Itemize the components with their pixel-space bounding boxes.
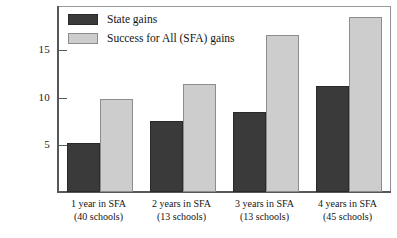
legend-item-1: State gains bbox=[68, 12, 235, 27]
category-label-4: 4 years in SFA(45 schools) bbox=[306, 198, 389, 223]
bar-state-gains-group-2 bbox=[150, 121, 183, 192]
bar-state-gains-group-3 bbox=[233, 112, 266, 192]
x-axis-category-labels: 1 year in SFA(40 schools)2 years in SFA(… bbox=[57, 198, 391, 234]
y-tick-label: 15 bbox=[16, 44, 50, 55]
y-tick-label: 10 bbox=[16, 92, 50, 103]
y-tick-label: 5 bbox=[16, 139, 50, 150]
category-label-line1: 3 years in SFA bbox=[223, 198, 306, 211]
category-label-line2: (13 schools) bbox=[223, 211, 306, 224]
category-label-line1: 1 year in SFA bbox=[57, 198, 140, 211]
legend-swatch-dark bbox=[68, 14, 98, 25]
category-label-line2: (13 schools) bbox=[140, 211, 223, 224]
category-label-3: 3 years in SFA(13 schools) bbox=[223, 198, 306, 223]
bar-state-gains-group-4 bbox=[316, 86, 349, 192]
category-label-2: 2 years in SFA(13 schools) bbox=[140, 198, 223, 223]
category-label-line2: (40 schools) bbox=[57, 211, 140, 224]
legend-item-2: Success for All (SFA) gains bbox=[68, 31, 235, 46]
bar-sfa-gains-group-1 bbox=[100, 99, 133, 192]
category-label-1: 1 year in SFA(40 schools) bbox=[57, 198, 140, 223]
bar-sfa-gains-group-4 bbox=[349, 17, 382, 192]
bar-chart-figure: 51015 State gainsSuccess for All (SFA) g… bbox=[0, 0, 397, 238]
legend-swatch-light bbox=[68, 33, 98, 44]
bar-sfa-gains-group-2 bbox=[183, 84, 216, 192]
chart-legend: State gainsSuccess for All (SFA) gains bbox=[68, 12, 235, 50]
bar-sfa-gains-group-3 bbox=[266, 35, 299, 192]
category-label-line1: 4 years in SFA bbox=[306, 198, 389, 211]
legend-label: State gains bbox=[107, 13, 157, 26]
category-label-line1: 2 years in SFA bbox=[140, 198, 223, 211]
category-label-line2: (45 schools) bbox=[306, 211, 389, 224]
bar-state-gains-group-1 bbox=[67, 143, 100, 192]
legend-label: Success for All (SFA) gains bbox=[107, 32, 235, 45]
